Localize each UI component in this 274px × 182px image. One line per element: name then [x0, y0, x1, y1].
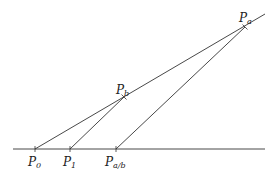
ray-p0-pa	[35, 14, 265, 149]
label-p0: P0	[27, 155, 41, 170]
label-pab: Pa/b	[104, 155, 126, 170]
label-pa: Pa	[238, 11, 252, 26]
geometry-diagram: P0 P1 Pa/b Pb Pa	[0, 0, 274, 182]
segment-pab-pa	[116, 27, 245, 149]
label-p1: P1	[62, 155, 76, 170]
segment-p1-pb	[70, 97, 124, 149]
label-pb: Pb	[115, 83, 129, 98]
